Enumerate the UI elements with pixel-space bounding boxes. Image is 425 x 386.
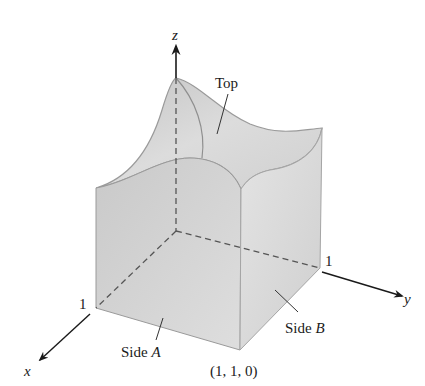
side-b-label: Side B xyxy=(285,320,325,336)
x-axis-label: x xyxy=(23,363,31,379)
x-axis-arrow xyxy=(40,314,90,360)
side-a-letter: A xyxy=(150,344,161,360)
solid-diagram: z x y 1 1 Top Side A Side B (1, 1, 0) xyxy=(0,0,425,386)
corner-point-label: (1, 1, 0) xyxy=(210,363,258,380)
top-label: Top xyxy=(215,75,238,91)
side-b-prefix: Side xyxy=(285,320,315,336)
side-a-prefix: Side xyxy=(121,344,151,360)
y-axis-label: y xyxy=(402,291,411,307)
side-a-label: Side A xyxy=(121,344,161,360)
side-b-letter: B xyxy=(315,320,324,336)
side-a-face xyxy=(96,158,241,350)
z-axis-label: z xyxy=(171,27,178,43)
x-tick-1: 1 xyxy=(79,296,87,312)
y-tick-1: 1 xyxy=(325,253,333,269)
y-axis-arrow xyxy=(322,272,402,296)
